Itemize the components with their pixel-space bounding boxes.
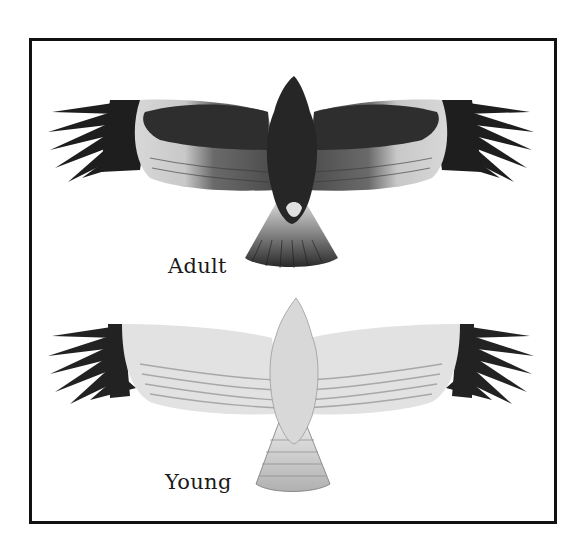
- adult-bird-illustration: [48, 76, 534, 268]
- adult-caption: Adult: [168, 254, 227, 278]
- young-bird-illustration: [48, 298, 534, 492]
- young-body: [270, 298, 318, 444]
- illustration-canvas: [0, 0, 582, 556]
- adult-right-wingtip-feathers: [432, 100, 534, 182]
- adult-body: [267, 76, 317, 224]
- young-caption: Young: [165, 470, 232, 494]
- adult-left-wingtip-feathers: [48, 100, 150, 182]
